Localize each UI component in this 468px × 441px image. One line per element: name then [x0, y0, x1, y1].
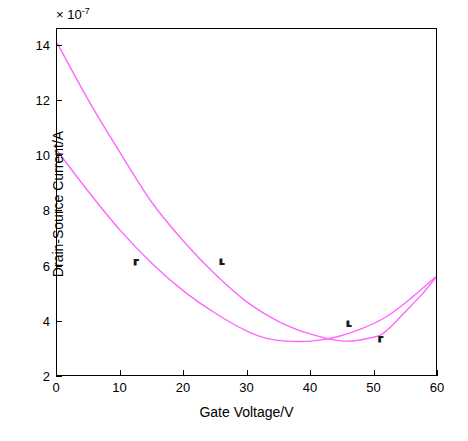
y-tick-mark [56, 376, 62, 377]
x-tick-label: 10 [112, 380, 126, 395]
arrow-mark-left: ⸢ [132, 259, 140, 276]
x-tick-mark [183, 370, 184, 376]
x-axis-title: Gate Voltage/V [56, 404, 437, 420]
x-tick-label: 60 [430, 380, 444, 395]
figure-canvas: × 10-7 2468101214 0102030405060 ⸢⸤⸤⸢ Gat… [0, 0, 468, 441]
x-tick-mark [374, 370, 375, 376]
y-axis-title: Drain-Source Current/A [50, 30, 66, 378]
x-tick-mark [247, 370, 248, 376]
y-tick-mark [56, 210, 62, 211]
x-tick-mark [120, 370, 121, 376]
plot-area [56, 28, 437, 376]
x-tick-label: 40 [303, 380, 317, 395]
curve-line [57, 43, 437, 341]
y-tick-mark [56, 321, 62, 322]
x-tick-mark [56, 370, 57, 376]
curve-line [57, 151, 437, 342]
x-tick-mark [437, 370, 438, 376]
arrow-mark-mid: ⸤ [218, 249, 226, 266]
y-tick-mark [56, 266, 62, 267]
y-tick-mark [56, 100, 62, 101]
y-tick-mark [56, 155, 62, 156]
plot-curves [57, 29, 437, 376]
x-tick-label: 20 [176, 380, 190, 395]
y-tick-mark [56, 45, 62, 46]
arrow-mark-right: ⸤ [345, 311, 353, 328]
x-tick-label: 50 [366, 380, 380, 395]
x-tick-mark [310, 370, 311, 376]
arrow-mark-bottom: ⸢ [377, 336, 385, 353]
x-tick-label: 0 [52, 380, 59, 395]
x-tick-label: 30 [239, 380, 253, 395]
